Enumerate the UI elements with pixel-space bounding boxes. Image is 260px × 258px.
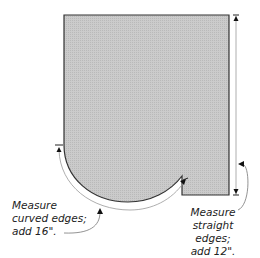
curved-edges-note: Measure curved edges; add 16". xyxy=(12,199,87,238)
straight-edges-note: Measure straight edges; add 12". xyxy=(175,206,251,258)
curved-note-line-3: add 16". xyxy=(12,225,87,238)
pattern-piece-shape xyxy=(64,15,229,202)
curved-note-line-2: curved edges; xyxy=(12,212,87,225)
straight-note-line-2: straight edges; xyxy=(175,219,251,245)
arrow-down-icon xyxy=(234,189,239,194)
straight-measure-line xyxy=(233,15,239,195)
curved-note-line-1: Measure xyxy=(12,199,87,212)
straight-note-line-3: add 12". xyxy=(175,245,251,258)
straight-note-line-1: Measure xyxy=(175,206,251,219)
arrow-pointer-icon xyxy=(97,208,103,214)
arrow-pointer-icon xyxy=(238,161,244,167)
straight-callout-pointer xyxy=(238,161,248,210)
arrow-up-icon xyxy=(57,147,62,152)
arrow-up-icon xyxy=(234,16,239,21)
